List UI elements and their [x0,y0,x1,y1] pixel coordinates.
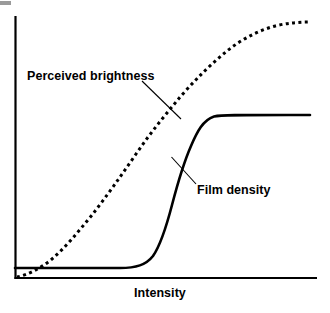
series-label-film-density: Film density [197,184,271,197]
chart-plot-area [0,0,330,313]
series-perceived-brightness-curve [17,22,311,277]
figure-container: Perceived brightness Film density Intens… [0,0,330,313]
series-label-perceived-brightness: Perceived brightness [27,70,154,83]
x-axis-title: Intensity [134,287,186,300]
leader-line-perceived-brightness [142,81,181,119]
